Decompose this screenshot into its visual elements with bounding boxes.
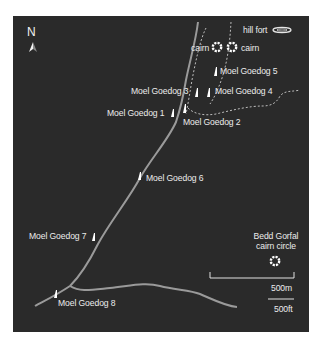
hill-fort-label: hill fort [243, 25, 267, 35]
stone-label-4: Moel Goedog 4 [215, 86, 272, 96]
stone-label-1: Moel Goedog 1 [107, 108, 164, 118]
cairn-icon [213, 43, 221, 51]
cairn-circle-icon [271, 257, 279, 265]
standing-stone-icon [138, 172, 141, 180]
scale-bar-metric [210, 272, 294, 278]
standing-stone-icon [54, 290, 57, 298]
stone-label-5: Moel Goedog 5 [220, 66, 277, 76]
stone-label-6: Moel Goedog 6 [146, 173, 203, 183]
standing-stone-icon [195, 88, 198, 97]
standing-stone-icon [207, 88, 210, 97]
track-west [186, 28, 206, 114]
standing-stone-icon [183, 104, 186, 113]
stone-label-2: Moel Goedog 2 [183, 117, 240, 127]
bedd-gorfal-label-line1: Bedd Gorfal [247, 231, 305, 241]
cairn-west-label: cairn [191, 43, 209, 53]
cairn-east-label: cairn [241, 43, 259, 53]
stone-label-8: Moel Goedog 8 [58, 298, 115, 308]
scale-metric-label: 500m [271, 283, 292, 293]
scale-imperial-label: 500ft [274, 304, 293, 314]
standing-stone-icon [214, 67, 217, 76]
bedd-gorfal-label-line2: cairn circle [247, 241, 305, 251]
standing-stone-icon [92, 233, 95, 241]
north-arrow-icon [29, 42, 37, 52]
stone-label-7: Moel Goedog 7 [29, 231, 86, 241]
standing-stone-icon [171, 109, 174, 117]
hill-fort-icon [273, 27, 291, 32]
main-road [35, 22, 198, 306]
stone-label-3: Moel Goedog 3 [131, 86, 188, 96]
north-label: N [27, 26, 36, 38]
